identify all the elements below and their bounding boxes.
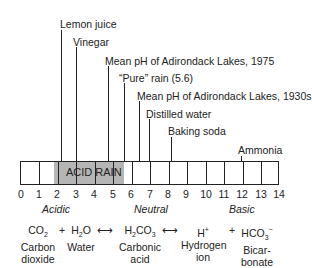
tick-label: 7 bbox=[142, 188, 158, 200]
tick-label: 5 bbox=[105, 188, 121, 200]
marker-label: Ammonia bbox=[238, 144, 282, 156]
operator-equilibrium: ⟷ bbox=[97, 224, 113, 236]
term-name: Carbon bbox=[20, 241, 56, 253]
term-name: acid bbox=[118, 253, 162, 265]
region-acidic: Acidic bbox=[42, 203, 70, 215]
tick-label: 3 bbox=[68, 188, 84, 200]
formula: H2O bbox=[66, 224, 96, 241]
tick-label: 12 bbox=[234, 188, 250, 200]
marker-line bbox=[171, 137, 172, 161]
marker-label: Distilled water bbox=[146, 108, 211, 120]
marker-line bbox=[61, 30, 62, 161]
cell-divider bbox=[169, 162, 170, 184]
cell-divider bbox=[150, 162, 151, 184]
operator-plus: + bbox=[59, 224, 65, 236]
term-name: ion bbox=[181, 251, 225, 263]
marker-line bbox=[139, 101, 140, 161]
tick-label: 2 bbox=[49, 188, 65, 200]
marker-line bbox=[76, 47, 77, 161]
term-name: Bicar- bbox=[238, 244, 276, 256]
tick-label: 13 bbox=[253, 188, 269, 200]
cell-divider bbox=[243, 162, 244, 184]
tick-label: 11 bbox=[216, 188, 232, 200]
cell-divider bbox=[58, 162, 59, 184]
term-name: bonate bbox=[238, 256, 276, 268]
formula: H2CO3 bbox=[118, 224, 162, 241]
tick-label: 8 bbox=[160, 188, 176, 200]
cell-divider bbox=[39, 162, 40, 184]
operator-plus: + bbox=[229, 224, 235, 236]
formula: HCO3− bbox=[238, 224, 276, 244]
term-name: Carbonic bbox=[118, 241, 162, 253]
marker-label: Lemon juice bbox=[60, 18, 117, 30]
tick-label: 0 bbox=[13, 188, 29, 200]
marker-line bbox=[124, 83, 125, 161]
term-hco3: HCO3− Bicar- bonate bbox=[238, 224, 276, 268]
marker-label: Vinegar bbox=[73, 36, 109, 48]
tick-label: 10 bbox=[198, 188, 214, 200]
term-h2co3: H2CO3 Carbonic acid bbox=[118, 224, 162, 265]
formula: H+ bbox=[181, 224, 225, 239]
tick-label: 14 bbox=[271, 188, 287, 200]
cell-divider bbox=[206, 162, 207, 184]
term-name: Water bbox=[66, 241, 96, 253]
operator-equilibrium: ⟷ bbox=[162, 224, 178, 236]
term-h-ion: H+ Hydrogen ion bbox=[181, 224, 225, 263]
term-name: Hydrogen bbox=[181, 239, 225, 251]
marker-line bbox=[149, 119, 150, 161]
marker-line bbox=[108, 66, 109, 161]
cell-divider bbox=[187, 162, 188, 184]
tick-label: 6 bbox=[123, 188, 139, 200]
marker-label: Mean pH of Adirondack Lakes, 1930s bbox=[137, 90, 312, 102]
region-basic: Basic bbox=[229, 203, 255, 215]
marker-label: Mean pH of Adirondack Lakes, 1975 bbox=[105, 55, 274, 67]
tick-label: 9 bbox=[178, 188, 194, 200]
formula: CO2 bbox=[20, 224, 56, 241]
term-name: dioxide bbox=[20, 253, 56, 265]
region-neutral: Neutral bbox=[134, 203, 168, 215]
tick-label: 4 bbox=[86, 188, 102, 200]
term-h2o: H2O Water bbox=[66, 224, 96, 253]
cell-divider bbox=[224, 162, 225, 184]
cell-divider bbox=[261, 162, 262, 184]
marker-label: Baking soda bbox=[168, 125, 226, 137]
cell-divider bbox=[132, 162, 133, 184]
acid-rain-label: ACID RAIN bbox=[66, 166, 122, 178]
term-co2: CO2 Carbon dioxide bbox=[20, 224, 56, 265]
tick-label: 1 bbox=[31, 188, 47, 200]
marker-label: “Pure” rain (5.6) bbox=[119, 72, 193, 84]
ph-scale-bar: ACID RAIN bbox=[20, 161, 279, 185]
